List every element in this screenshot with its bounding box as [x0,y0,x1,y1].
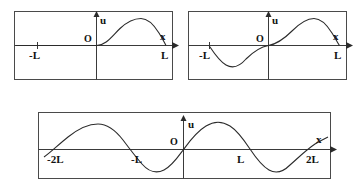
panel-top-right-plot: u x O -L L [188,11,350,81]
x-axis-label: x [160,30,166,42]
x-axis-label: x [333,30,339,42]
u-axis-arrowhead [181,115,187,121]
origin-label: O [84,33,92,44]
tick-label-neg-L: -L [199,49,210,61]
tick-label-pos-L: L [161,49,168,61]
solution-curve [44,122,328,172]
tick-label-neg-L: -L [131,153,142,165]
panel-bottom: u x O -2L -L L 2L [38,112,332,179]
u-axis-label: u [188,118,194,130]
x-axis-arrowhead [346,42,353,49]
panel-top-left-plot: u x O -L L [14,11,176,81]
tick-label-pos-2L: 2L [306,153,319,165]
panel-top-left: u x O -L L [14,11,174,80]
origin-label: O [170,136,178,147]
tick-label-neg-2L: -2L [47,153,64,165]
x-axis-arrowhead [172,42,179,49]
tick-label-neg-L: -L [29,49,40,61]
origin-label: O [256,33,264,44]
panel-top-right: u x O -L L [188,11,348,80]
tick-label-pos-L: L [334,49,341,61]
tick-label-pos-L: L [237,153,244,165]
panel-bottom-plot: u x O -2L -L L 2L [38,112,334,180]
x-axis-arrowhead [330,146,337,153]
x-axis-label: x [316,133,322,145]
figure-container: u x O -L L u x O -L L [0,0,358,186]
u-axis-label: u [100,14,106,26]
u-axis-label: u [272,14,278,26]
